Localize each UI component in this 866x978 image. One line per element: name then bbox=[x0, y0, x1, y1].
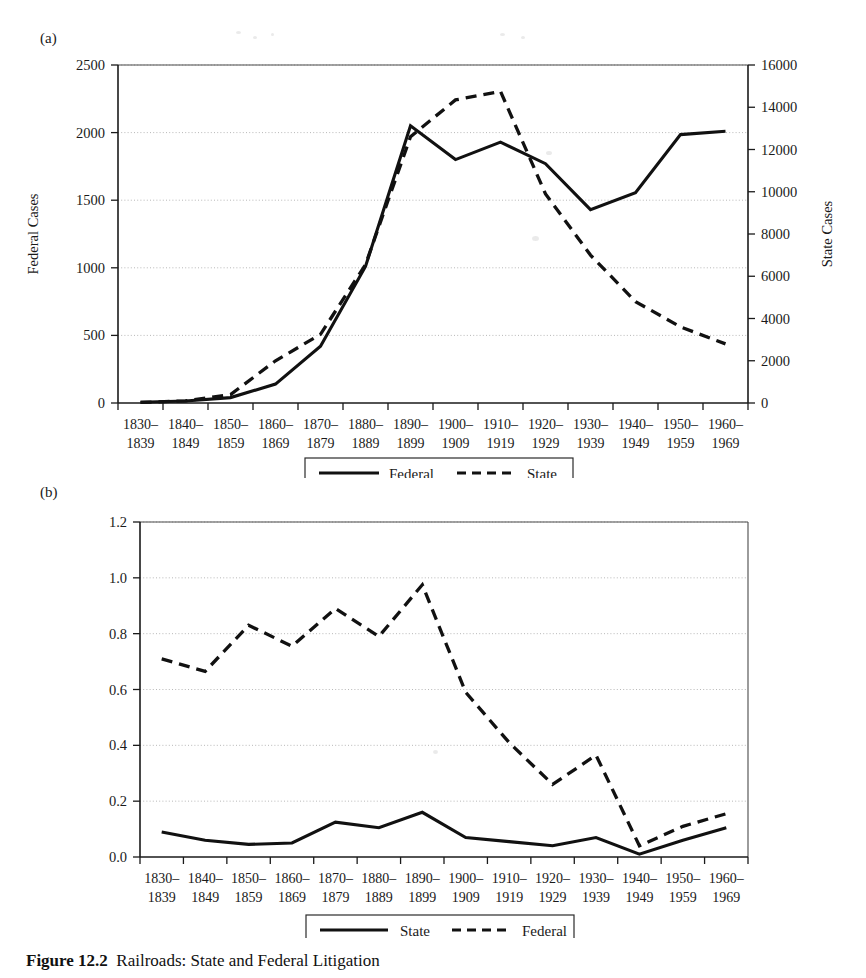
x-tick-label-top: 1900– bbox=[448, 871, 484, 886]
x-tick-label-top: 1930– bbox=[579, 871, 615, 886]
y-tick-label-right: 6000 bbox=[761, 268, 790, 284]
x-tick-label-top: 1940– bbox=[618, 417, 654, 432]
series-line-state bbox=[162, 812, 727, 854]
x-tick-label-bottom: 1919 bbox=[495, 890, 523, 905]
y-tick-label-left: 1000 bbox=[76, 260, 105, 276]
x-tick-label-bottom: 1959 bbox=[669, 890, 697, 905]
x-tick-label-top: 1850– bbox=[231, 871, 267, 886]
x-tick-label-bottom: 1969 bbox=[712, 436, 740, 451]
x-tick-label-bottom: 1949 bbox=[625, 890, 653, 905]
x-tick-label-bottom: 1929 bbox=[532, 436, 560, 451]
y-tick-label: 0.6 bbox=[109, 682, 127, 698]
x-tick-label-bottom: 1889 bbox=[365, 890, 393, 905]
x-tick-label-top: 1860– bbox=[258, 417, 294, 432]
y-tick-label-right: 12000 bbox=[761, 142, 797, 158]
x-tick-label-top: 1940– bbox=[622, 871, 658, 886]
y-tick-label-right: 4000 bbox=[761, 311, 790, 327]
y-axis-title-right: State Cases bbox=[819, 200, 835, 267]
y-tick-label: 1.2 bbox=[109, 514, 127, 530]
x-tick-label-top: 1900– bbox=[438, 417, 474, 432]
x-tick-label-bottom: 1859 bbox=[217, 436, 245, 451]
y-tick-label-right: 0 bbox=[761, 395, 768, 411]
x-tick-label-top: 1890– bbox=[405, 871, 441, 886]
y-tick-label-left: 0 bbox=[98, 395, 105, 411]
x-tick-label-top: 1910– bbox=[483, 417, 519, 432]
x-tick-label-top: 1870– bbox=[303, 417, 339, 432]
panel-a-plot: 0500100015002000250002000400060008000100… bbox=[0, 0, 866, 478]
x-tick-label-top: 1950– bbox=[665, 871, 701, 886]
x-tick-label-top: 1920– bbox=[528, 417, 564, 432]
series-line-federal bbox=[141, 126, 726, 403]
x-tick-label-top: 1870– bbox=[318, 871, 354, 886]
x-tick-label-bottom: 1919 bbox=[487, 436, 515, 451]
x-tick-label-bottom: 1879 bbox=[321, 890, 349, 905]
y-tick-label-right: 14000 bbox=[761, 99, 797, 115]
y-axis-title-left: Federal Cases bbox=[25, 193, 41, 274]
x-tick-label-bottom: 1849 bbox=[191, 890, 219, 905]
panel-a: (a) 050010001500200025000200040006000800… bbox=[0, 0, 866, 478]
x-tick-label-bottom: 1889 bbox=[352, 436, 380, 451]
x-tick-label-top: 1950– bbox=[663, 417, 699, 432]
y-tick-label-left: 2500 bbox=[76, 57, 105, 73]
x-tick-label-top: 1830– bbox=[123, 417, 159, 432]
y-tick-label: 0.8 bbox=[109, 626, 127, 642]
x-tick-label-bottom: 1899 bbox=[408, 890, 436, 905]
x-tick-label-bottom: 1839 bbox=[148, 890, 176, 905]
panel-b: (b) 0.00.20.40.60.81.01.21830–18391840–1… bbox=[0, 478, 866, 938]
x-tick-label-top: 1920– bbox=[535, 871, 571, 886]
y-tick-label-right: 16000 bbox=[761, 57, 797, 73]
x-tick-label-bottom: 1869 bbox=[278, 890, 306, 905]
x-tick-label-top: 1890– bbox=[393, 417, 429, 432]
legend-label-federal: Federal bbox=[389, 466, 434, 479]
x-tick-label-bottom: 1939 bbox=[577, 436, 605, 451]
x-tick-label-bottom: 1929 bbox=[539, 890, 567, 905]
x-tick-label-top: 1830– bbox=[144, 871, 180, 886]
y-tick-label-left: 500 bbox=[83, 327, 105, 343]
x-tick-label-top: 1850– bbox=[213, 417, 249, 432]
x-tick-label-bottom: 1859 bbox=[235, 890, 263, 905]
series-line-federal bbox=[162, 585, 727, 846]
x-tick-label-top: 1840– bbox=[188, 871, 224, 886]
series-line-state bbox=[141, 91, 726, 402]
x-tick-label-top: 1860– bbox=[275, 871, 311, 886]
x-tick-label-top: 1840– bbox=[168, 417, 204, 432]
figure-container: (a) 050010001500200025000200040006000800… bbox=[0, 0, 866, 978]
x-tick-label-bottom: 1869 bbox=[262, 436, 290, 451]
x-tick-label-top: 1960– bbox=[709, 871, 745, 886]
y-tick-label: 0.4 bbox=[109, 737, 128, 753]
legend-label-state: State bbox=[527, 466, 557, 479]
y-tick-label-right: 10000 bbox=[761, 184, 797, 200]
x-tick-label-bottom: 1879 bbox=[307, 436, 335, 451]
x-tick-label-bottom: 1959 bbox=[667, 436, 695, 451]
x-tick-label-bottom: 1909 bbox=[452, 890, 480, 905]
legend-label-federal: Federal bbox=[522, 923, 567, 939]
y-tick-label-right: 2000 bbox=[761, 353, 790, 369]
x-tick-label-top: 1880– bbox=[361, 871, 397, 886]
figure-caption: Figure 12.2 Railroads: State and Federal… bbox=[26, 951, 846, 971]
x-tick-label-top: 1880– bbox=[348, 417, 384, 432]
y-tick-label-left: 2000 bbox=[76, 125, 105, 141]
panel-b-plot: 0.00.20.40.60.81.01.21830–18391840–18491… bbox=[0, 478, 866, 938]
caption-text: Railroads: State and Federal Litigation bbox=[116, 951, 379, 970]
x-tick-label-top: 1910– bbox=[492, 871, 528, 886]
x-tick-label-bottom: 1849 bbox=[172, 436, 200, 451]
x-tick-label-top: 1930– bbox=[573, 417, 609, 432]
x-tick-label-bottom: 1939 bbox=[582, 890, 610, 905]
y-tick-label: 0.2 bbox=[109, 793, 127, 809]
x-tick-label-top: 1960– bbox=[708, 417, 744, 432]
y-tick-label: 1.0 bbox=[109, 570, 127, 586]
x-tick-label-bottom: 1949 bbox=[622, 436, 650, 451]
caption-number: Figure 12.2 bbox=[26, 951, 108, 970]
x-tick-label-bottom: 1839 bbox=[127, 436, 155, 451]
x-tick-label-bottom: 1899 bbox=[397, 436, 425, 451]
legend-label-state: State bbox=[400, 923, 430, 939]
x-tick-label-bottom: 1909 bbox=[442, 436, 470, 451]
y-tick-label: 0.0 bbox=[109, 849, 127, 865]
x-tick-label-bottom: 1969 bbox=[712, 890, 740, 905]
y-tick-label-right: 8000 bbox=[761, 226, 790, 242]
y-tick-label-left: 1500 bbox=[76, 192, 105, 208]
